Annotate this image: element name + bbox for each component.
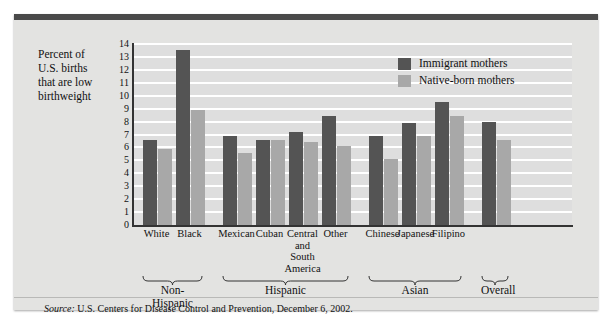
bar-native-born [238, 153, 252, 225]
bar-native-born [417, 136, 431, 225]
x-tick-label-line: Other [310, 228, 361, 240]
bar-immigrant [143, 140, 157, 225]
bar-immigrant [435, 102, 449, 225]
top-rule [14, 14, 598, 20]
y-tick-label: 6 [107, 142, 129, 152]
y-tick-label: 10 [107, 91, 129, 101]
bar-group [174, 44, 205, 225]
group-label: Asian [368, 284, 462, 297]
y-tick-label: 0 [107, 220, 129, 230]
x-tick-label: Filipino [423, 228, 474, 240]
bar-native-born [271, 140, 285, 225]
group-label: Overall [481, 284, 509, 297]
y-tick-label: 8 [107, 117, 129, 127]
source-divider [14, 297, 598, 298]
bar-immigrant [402, 123, 416, 225]
y-tick-label: 9 [107, 104, 129, 114]
bar-group [320, 44, 351, 225]
bar-immigrant [482, 122, 496, 225]
chart-card: Percent of U.S. births that are low birt… [14, 14, 598, 310]
group-bracket [481, 272, 509, 284]
bar-group [221, 44, 252, 225]
legend-swatch-icon-immigrant [398, 58, 411, 70]
source-note: Source: U.S. Centers for Disease Control… [44, 303, 353, 314]
y-tick-label: 12 [107, 65, 129, 75]
bar-group [254, 44, 285, 225]
bar-native-born [450, 116, 464, 225]
y-tick-label: 1 [107, 207, 129, 217]
y-tick-label: 14 [107, 39, 129, 49]
x-tick-label-line: Black [164, 228, 215, 240]
y-tick-label: 5 [107, 155, 129, 165]
bar-native-born [191, 110, 205, 225]
bar-immigrant [176, 50, 190, 225]
y-tick-label: 13 [107, 52, 129, 62]
group-bracket [368, 272, 462, 284]
chart-screenshot: Percent of U.S. births that are low birt… [0, 0, 612, 326]
y-tick-label: 11 [107, 78, 129, 88]
legend-swatch-icon-native [398, 75, 411, 87]
legend-item-immigrant: Immigrant mothers [398, 55, 515, 72]
group-bracket [142, 272, 203, 284]
bar-immigrant [322, 116, 336, 225]
x-tick-label-line: Filipino [423, 228, 474, 240]
x-tick-label-line: and [277, 240, 328, 252]
y-tick-label: 2 [107, 194, 129, 204]
legend-item-native: Native-born mothers [398, 72, 515, 89]
bar-immigrant [369, 136, 383, 225]
bar-native-born [497, 140, 511, 225]
x-tick-label: Other [310, 228, 361, 240]
bar-native-born [304, 142, 318, 225]
group-label: Hispanic [222, 284, 349, 297]
bar-group [141, 44, 172, 225]
bar-immigrant [256, 140, 270, 225]
group-bracket [222, 272, 349, 284]
bar-immigrant [223, 136, 237, 225]
bar-native-born [384, 159, 398, 225]
source-text: U.S. Centers for Disease Control and Pre… [77, 303, 353, 314]
x-tick-label-line: South [277, 251, 328, 263]
chart-legend: Immigrant mothers Native-born mothers [398, 55, 515, 89]
bar-immigrant [289, 132, 303, 225]
bar-group [287, 44, 318, 225]
bar-group [367, 44, 398, 225]
bar-native-born [337, 146, 351, 225]
source-prefix: Source: [44, 303, 75, 314]
legend-label-native: Native-born mothers [419, 72, 515, 89]
y-tick-label: 7 [107, 130, 129, 140]
y-tick-label: 3 [107, 181, 129, 191]
x-tick-label: Black [164, 228, 215, 240]
bar-native-born [158, 149, 172, 225]
legend-label-immigrant: Immigrant mothers [419, 55, 507, 72]
x-axis-line [132, 225, 573, 227]
y-tick-label: 4 [107, 168, 129, 178]
